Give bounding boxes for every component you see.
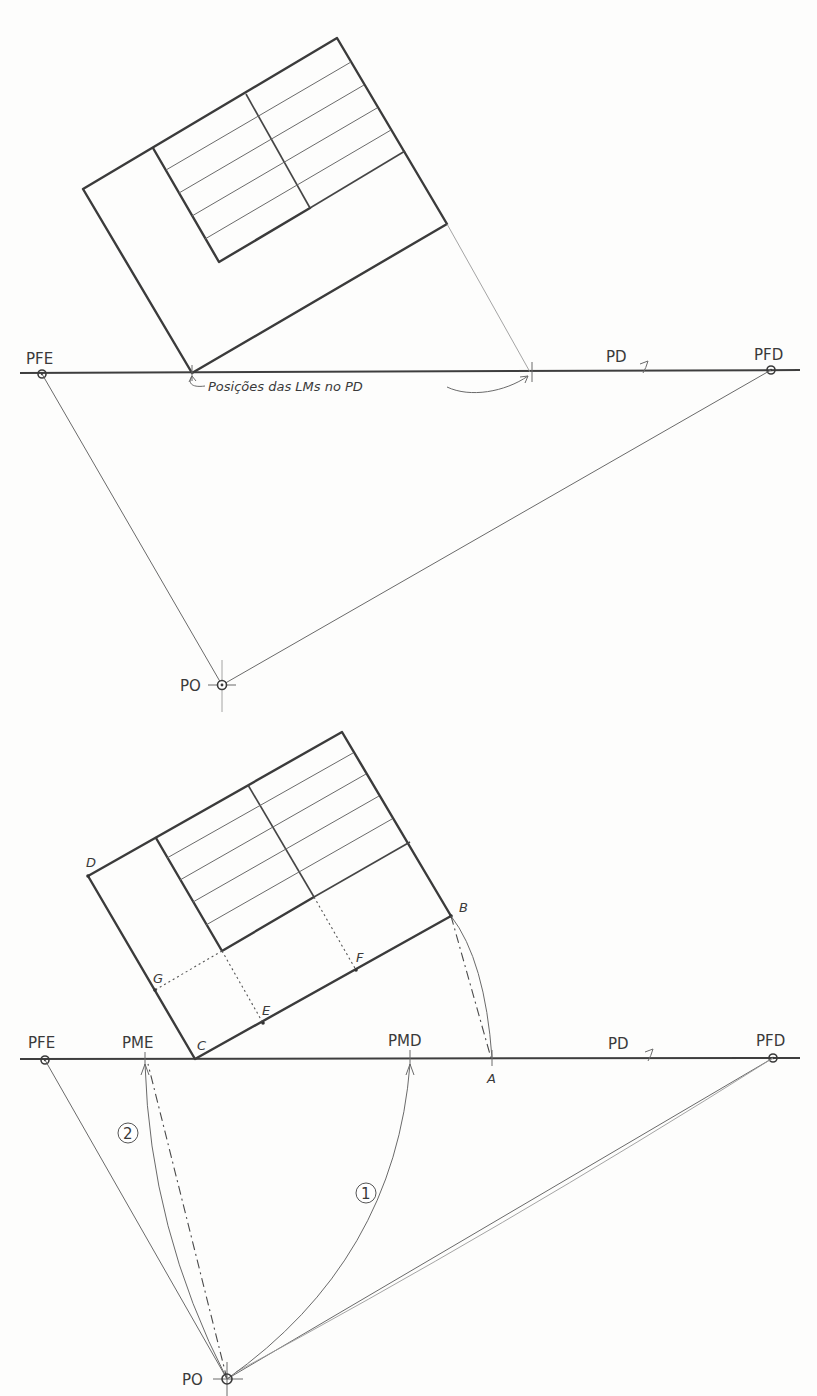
tread-line [167, 753, 353, 858]
tread-line [193, 796, 379, 902]
arc-2-po-to-pme [145, 1064, 227, 1379]
label-step-2: 2 [123, 1125, 133, 1143]
tread-line [179, 85, 364, 193]
construction-line-f [314, 897, 356, 970]
sight-line-right [227, 1058, 773, 1379]
dash-line-po-pme [148, 1064, 227, 1379]
diagram-svg: Posições das LMs no PD PD PFE PFD PO [0, 0, 817, 1396]
annotation-arrow-right [447, 376, 528, 393]
plan-outer-rectangle [83, 38, 447, 373]
sight-line-left [45, 1060, 227, 1379]
annotation-text: Posições das LMs no PD [208, 379, 363, 394]
bottom-figure: D B F G E C A PD PFE PFD PME PMD [20, 732, 800, 1396]
label-e: E [262, 1003, 271, 1018]
label-pfd: PFD [756, 1032, 785, 1050]
label-step-1: 1 [361, 1185, 371, 1203]
point-f [354, 968, 358, 972]
stair-bottom-edge [314, 842, 410, 897]
sight-line-left [42, 374, 222, 685]
construction-line-e [222, 951, 263, 1023]
label-d: D [86, 855, 96, 870]
tread-line [192, 108, 377, 216]
projection-line [447, 224, 530, 372]
label-po: PO [182, 1371, 203, 1389]
point-d [86, 874, 90, 878]
label-pd: PD [608, 1035, 629, 1053]
tread-line [205, 130, 391, 239]
tread-line [180, 774, 366, 880]
label-pfe: PFE [26, 350, 53, 368]
perspective-construction-diagram: Posições das LMs no PD PD PFE PFD PO [0, 0, 817, 1396]
point-g [153, 988, 157, 992]
sight-line-right [222, 370, 771, 685]
top-figure: Posições das LMs no PD PD PFE PFD PO [20, 38, 800, 712]
pd-hook-icon [645, 1049, 653, 1061]
label-po: PO [180, 677, 201, 695]
point-e [261, 1021, 265, 1025]
label-pfe: PFE [28, 1034, 55, 1052]
tread-line [166, 62, 351, 170]
tread-line [206, 819, 392, 925]
stair-divider [248, 785, 314, 897]
label-pfd: PFD [754, 346, 783, 364]
label-g: G [153, 971, 163, 986]
stair-inner-border [156, 838, 314, 951]
label-c: C [197, 1038, 207, 1053]
label-a: A [486, 1071, 496, 1086]
stair-divider [246, 94, 310, 208]
label-pmd: PMD [388, 1032, 422, 1050]
label-pd: PD [606, 348, 627, 366]
dash-line-b-a [451, 916, 491, 1058]
label-f: F [356, 950, 364, 965]
po-point-center [221, 684, 224, 687]
arc-1-po-to-pmd [227, 1064, 410, 1379]
construction-line-g [155, 951, 222, 990]
picture-plane-line [20, 370, 800, 373]
stair-bottom-edge [310, 151, 405, 208]
label-pme: PME [122, 1034, 153, 1052]
label-b: B [459, 900, 468, 915]
